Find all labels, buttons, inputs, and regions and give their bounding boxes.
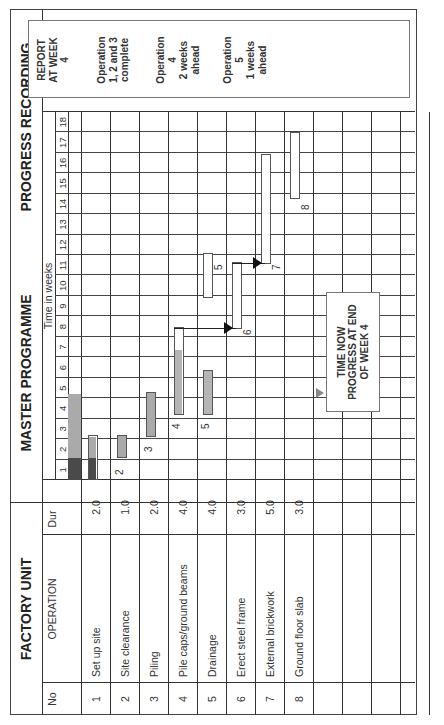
report-note-1-line1: Operation <box>96 22 108 98</box>
report-heading-line1: REPORT <box>36 22 48 98</box>
progress-bar-op4 <box>175 350 182 414</box>
op-name-3: Piling <box>139 537 168 677</box>
report-box <box>28 20 410 98</box>
planned-bar-op7 <box>261 154 271 264</box>
op-no-2: 2 <box>110 683 139 715</box>
planned-bar-op2 <box>117 435 127 458</box>
op-name-6: Erect steel frame <box>226 537 255 677</box>
op-duration-3: 2.0 <box>139 480 168 535</box>
section-divider-right <box>42 111 415 112</box>
time-now-line2: PROGRESS AT END <box>347 304 359 400</box>
op-name-5: Drainage <box>197 537 226 677</box>
op-duration-8: 3.0 <box>284 480 313 535</box>
time-now-line1: TIME NOW <box>336 326 348 377</box>
progress-strip-weeks2-4 <box>68 394 81 458</box>
week-grid-line <box>55 234 415 235</box>
report-note-1-line3: complete <box>119 22 131 98</box>
bar-label-6: 6 <box>242 329 253 335</box>
report-note-2: Operation 4 2 weeks ahead <box>155 22 201 98</box>
report-note-2-line2: 4 <box>167 22 179 98</box>
week-header-14: 14 <box>57 194 68 214</box>
time-now-note: TIME NOW PROGRESS AT END OF WEEK 4 <box>326 292 380 412</box>
row-divider <box>429 112 430 715</box>
week-grid-line <box>55 152 415 153</box>
op-name-2: Site clearance <box>110 537 139 677</box>
bar-label-7: 7 <box>271 264 282 270</box>
week-grid-line <box>55 193 415 194</box>
title-factory-unit: FACTORY UNIT <box>18 503 34 715</box>
gantt-chart-stage: FACTORY UNIT MASTER PROGRAMME PROGRESS R… <box>0 0 444 725</box>
week-header-9: 9 <box>57 296 68 316</box>
op-duration-7: 5.0 <box>255 480 284 535</box>
week-header-8: 8 <box>57 316 68 336</box>
op-no-8: 8 <box>284 683 313 715</box>
week-grid-line <box>55 131 415 132</box>
op-name-4: Pile caps/ground beams <box>168 537 197 677</box>
op-no-6: 6 <box>226 683 255 715</box>
row-divider <box>371 112 372 715</box>
report-note-2-line4: ahead <box>190 22 202 98</box>
header-dur: Dur <box>46 503 58 535</box>
report-note-1-line2: 1, 2 and 3 <box>108 22 120 98</box>
report-heading-line3: 4 <box>59 22 71 98</box>
week-header-3: 3 <box>57 419 68 439</box>
bar-label-5: 5 <box>200 423 211 429</box>
report-note-3-line1: Operation <box>222 22 234 98</box>
report-note-2-line3: 2 weeks <box>178 22 190 98</box>
week-grid-line <box>55 172 415 173</box>
row-divider <box>400 112 401 715</box>
row-divider <box>313 112 314 715</box>
week-grid-line <box>55 438 415 439</box>
report-heading-line2: AT WEEK <box>48 22 60 98</box>
week-header-5: 5 <box>57 378 68 398</box>
planned-bar-op5-late <box>203 253 213 298</box>
week-grid-line <box>55 254 415 255</box>
report-note-3-line3: 1 weeks <box>245 22 257 98</box>
op-duration-5: 4.0 <box>197 480 226 535</box>
op-duration-2: 1.0 <box>110 480 139 535</box>
time-now-line3: OF WEEK 4 <box>359 325 371 380</box>
header-no: No <box>46 683 58 715</box>
op-name-7: External brickwork <box>255 537 284 677</box>
week-header-7: 7 <box>57 337 68 357</box>
week-header-4: 4 <box>57 398 68 418</box>
week-header-10: 10 <box>57 276 68 296</box>
op-duration-6: 3.0 <box>226 480 255 535</box>
bar-label-8: 8 <box>300 204 311 210</box>
planned-bar-op8 <box>290 132 300 199</box>
bar-label-2: 2 <box>114 469 125 475</box>
week-grid-line <box>55 213 415 214</box>
week-header-13: 13 <box>57 214 68 234</box>
op-name-1: Set up site <box>81 537 110 677</box>
title-master-programme: MASTER PROGRAMME <box>18 243 34 503</box>
header-operation: OPERATION <box>46 535 58 683</box>
week-header-top <box>55 112 56 480</box>
week-header-17: 17 <box>57 132 68 152</box>
week-header-2: 2 <box>57 439 68 459</box>
header-time-in-weeks: Time in weeks <box>42 112 54 480</box>
report-note-1: Operation 1, 2 and 3 complete <box>96 22 131 98</box>
op-no-3: 3 <box>139 683 168 715</box>
week-header-12: 12 <box>57 235 68 255</box>
progress-bar-op1-dark <box>89 458 96 480</box>
report-note-2-line1: Operation <box>155 22 167 98</box>
dependency-arrow-6 <box>224 322 233 334</box>
planned-bar-op3 <box>146 392 156 437</box>
row-divider <box>342 112 343 715</box>
report-note-3-line4: ahead <box>257 22 269 98</box>
week-header-11: 11 <box>57 255 68 275</box>
report-note-3-line2: 5 <box>234 22 246 98</box>
planned-bar-op5 <box>203 370 213 415</box>
week-grid-line <box>55 418 415 419</box>
dependency-arrow-7 <box>253 257 262 269</box>
op-name-8: Ground floor slab <box>284 537 313 677</box>
week-header-1: 1 <box>57 460 68 480</box>
op-no-1: 1 <box>81 683 110 715</box>
week-header-6: 6 <box>57 357 68 377</box>
report-note-3: Operation 5 1 weeks ahead <box>222 22 268 98</box>
week-header-16: 16 <box>57 153 68 173</box>
op-duration-1: 2.0 <box>81 480 110 535</box>
bar-label-4: 4 <box>171 423 182 429</box>
week-grid-line <box>55 459 415 460</box>
week-header-18: 18 <box>57 112 68 132</box>
